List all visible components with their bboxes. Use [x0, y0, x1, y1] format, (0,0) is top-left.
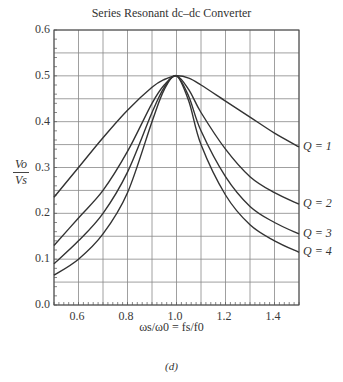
- y-tick-label: 0.6: [35, 22, 50, 37]
- y-label-numerator: Vo: [13, 157, 29, 173]
- x-tick-label: 1.0: [168, 309, 183, 324]
- y-tick-label: 0.5: [35, 68, 50, 83]
- x-tick-label: 0.8: [119, 309, 134, 324]
- y-tick-label: 0.2: [35, 205, 50, 220]
- x-tick-label: 1.4: [266, 309, 281, 324]
- series-label: Q = 2: [303, 196, 332, 211]
- y-tick-label: 0.3: [35, 160, 50, 175]
- series-label: Q = 3: [303, 226, 332, 241]
- x-tick-label: 1.2: [217, 309, 232, 324]
- x-tick-label: 0.6: [70, 309, 85, 324]
- y-axis-label: Vo Vs: [13, 157, 29, 188]
- y-tick-label: 0.1: [35, 251, 50, 266]
- y-label-denominator: Vs: [15, 173, 27, 187]
- y-tick-label: 0.0: [35, 297, 50, 312]
- figure-caption: (d): [0, 360, 343, 372]
- series-label: Q = 1: [303, 139, 332, 154]
- series-label: Q = 4: [303, 244, 332, 259]
- y-tick-label: 0.4: [35, 114, 50, 129]
